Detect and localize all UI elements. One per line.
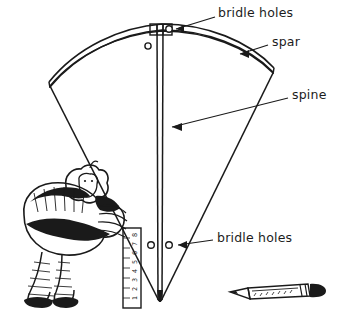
leader-bridle-holes-bottom xyxy=(178,240,213,249)
bridle-hole-top-left xyxy=(145,43,151,49)
bridle-hole-bottom-right xyxy=(166,242,173,249)
spine-member xyxy=(157,25,163,302)
illustration-canvas: 8 7 6 5 4 3 2 1 xyxy=(0,0,342,332)
kite-diagram-illustration: 8 7 6 5 4 3 2 1 xyxy=(0,0,342,332)
bridle-holes-bottom-group xyxy=(148,242,173,249)
label-spine: spine xyxy=(292,87,327,102)
label-bridle-holes-top: bridle holes xyxy=(218,5,293,20)
bridle-hole-bottom-left xyxy=(148,242,155,249)
leader-spine xyxy=(172,98,288,131)
ruler-digit: 3 xyxy=(131,278,139,282)
ruler-digit: 4 xyxy=(131,269,139,273)
ruler-digit: 6 xyxy=(131,251,139,255)
ruler-digit: 2 xyxy=(131,287,139,291)
cartoon-figure xyxy=(24,161,127,308)
ruler: 8 7 6 5 4 3 2 1 xyxy=(123,228,141,308)
ruler-digit: 1 xyxy=(131,296,139,300)
label-spar: spar xyxy=(272,34,301,49)
ruler-digit: 7 xyxy=(131,242,139,246)
ruler-digit: 5 xyxy=(131,260,139,264)
pencil xyxy=(230,284,326,299)
spar-member xyxy=(49,24,274,88)
bridle-hole-top-right xyxy=(166,26,172,32)
bridle-holes-top-group xyxy=(145,26,172,49)
ruler-digits: 8 7 6 5 4 3 2 1 xyxy=(131,233,139,300)
ruler-digit: 8 xyxy=(131,233,139,237)
label-bridle-holes-bottom: bridle holes xyxy=(217,230,292,245)
